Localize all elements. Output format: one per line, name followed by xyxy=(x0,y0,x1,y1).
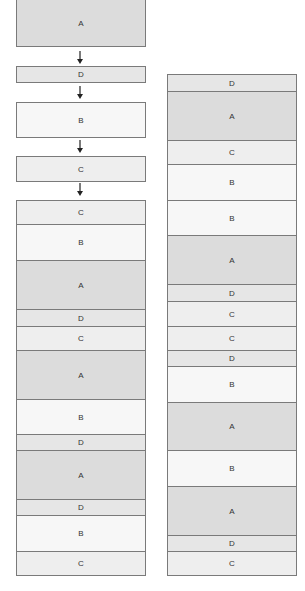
stack-block-d: D xyxy=(16,434,146,450)
block-label: C xyxy=(78,165,84,174)
block-label: A xyxy=(78,371,83,380)
stack-block-a: A xyxy=(16,260,146,309)
stack-block-c: C xyxy=(167,301,297,326)
block-label: D xyxy=(229,289,235,298)
down-arrow-icon xyxy=(75,140,85,154)
block-label: D xyxy=(78,70,84,79)
sequence-block-d: D xyxy=(16,66,146,83)
block-label: A xyxy=(78,281,83,290)
stack-block-b: B xyxy=(16,515,146,551)
stack-block-b: B xyxy=(167,450,297,486)
sequence-block-b: B xyxy=(16,102,146,138)
stack-block-b: B xyxy=(167,164,297,200)
stack-block-c: C xyxy=(167,326,297,350)
block-label: C xyxy=(78,559,84,568)
block-label: A xyxy=(229,256,234,265)
block-label: C xyxy=(78,334,84,343)
block-label: A xyxy=(229,112,234,121)
block-label: D xyxy=(78,503,84,512)
stack-block-c: C xyxy=(16,200,146,224)
stack-block-c: C xyxy=(167,551,297,576)
block-label: B xyxy=(229,178,234,187)
stack-block-d: D xyxy=(16,499,146,515)
sequence-block-a: A xyxy=(16,0,146,47)
block-label: B xyxy=(78,238,83,247)
block-label: C xyxy=(229,334,235,343)
down-arrow-icon xyxy=(75,183,85,197)
stack-block-a: A xyxy=(167,402,297,450)
stack-block-a: A xyxy=(16,450,146,499)
block-label: D xyxy=(229,539,235,548)
stack-block-c: C xyxy=(167,140,297,164)
stack-block-a: A xyxy=(167,91,297,140)
block-label: D xyxy=(78,314,84,323)
block-label: A xyxy=(78,471,83,480)
stack-block-d: D xyxy=(16,309,146,326)
block-label: C xyxy=(229,559,235,568)
down-arrow-icon xyxy=(75,51,85,65)
block-label: C xyxy=(229,148,235,157)
stack-block-c: C xyxy=(16,551,146,576)
block-label: C xyxy=(78,208,84,217)
stack-block-a: A xyxy=(167,235,297,284)
stack-block-b: B xyxy=(16,399,146,434)
block-label: B xyxy=(229,380,234,389)
stack-block-a: A xyxy=(167,486,297,535)
block-label: A xyxy=(229,422,234,431)
block-label: B xyxy=(78,413,83,422)
block-label: D xyxy=(78,438,84,447)
stack-block-c: C xyxy=(16,326,146,350)
stack-block-b: B xyxy=(167,200,297,235)
block-label: B xyxy=(78,116,83,125)
block-label: D xyxy=(229,79,235,88)
block-label: A xyxy=(229,507,234,516)
stack-block-d: D xyxy=(167,535,297,551)
block-label: B xyxy=(78,529,83,538)
stack-block-d: D xyxy=(167,350,297,366)
stack-block-d: D xyxy=(167,74,297,91)
block-label: B xyxy=(229,214,234,223)
block-label: A xyxy=(78,19,83,28)
stack-block-a: A xyxy=(16,350,146,399)
sequence-block-c: C xyxy=(16,156,146,182)
block-label: C xyxy=(229,310,235,319)
block-label: B xyxy=(229,464,234,473)
stack-block-b: B xyxy=(16,224,146,260)
block-label: D xyxy=(229,354,235,363)
stack-block-d: D xyxy=(167,284,297,301)
stack-block-b: B xyxy=(167,366,297,402)
down-arrow-icon xyxy=(75,86,85,100)
